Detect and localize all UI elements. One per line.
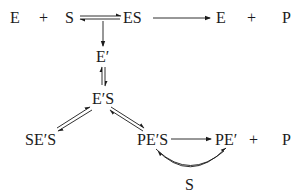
- plus-sign: +: [247, 10, 256, 26]
- species-pe-prime-s: PE′S: [137, 132, 168, 148]
- cycle-substrate-s: S: [185, 177, 194, 193]
- species-s: S: [65, 10, 74, 26]
- equilibrium-arrow-eprime-eprimes: [102, 67, 105, 86]
- species-p-bottom: P: [282, 132, 291, 148]
- reaction-arrows: [0, 0, 304, 196]
- curved-equilibrium-arrows: [156, 148, 226, 167]
- species-se-prime-s: SE′S: [25, 132, 56, 148]
- plus-sign: +: [249, 132, 258, 148]
- species-e: E: [10, 10, 20, 26]
- species-e-prime-s: E′S: [92, 91, 114, 107]
- species-e-product: E: [216, 10, 226, 26]
- equilibrium-arrow-eprimes-peprimes: [110, 107, 144, 131]
- equilibrium-arrow-eprimes-seprimes: [57, 107, 92, 131]
- species-pe-prime: PE′: [215, 132, 237, 148]
- plus-sign: +: [39, 10, 48, 26]
- species-p: P: [282, 10, 291, 26]
- species-es: ES: [123, 10, 142, 26]
- equilibrium-arrow-s-es: [80, 16, 121, 19]
- species-e-prime: E′: [96, 49, 109, 65]
